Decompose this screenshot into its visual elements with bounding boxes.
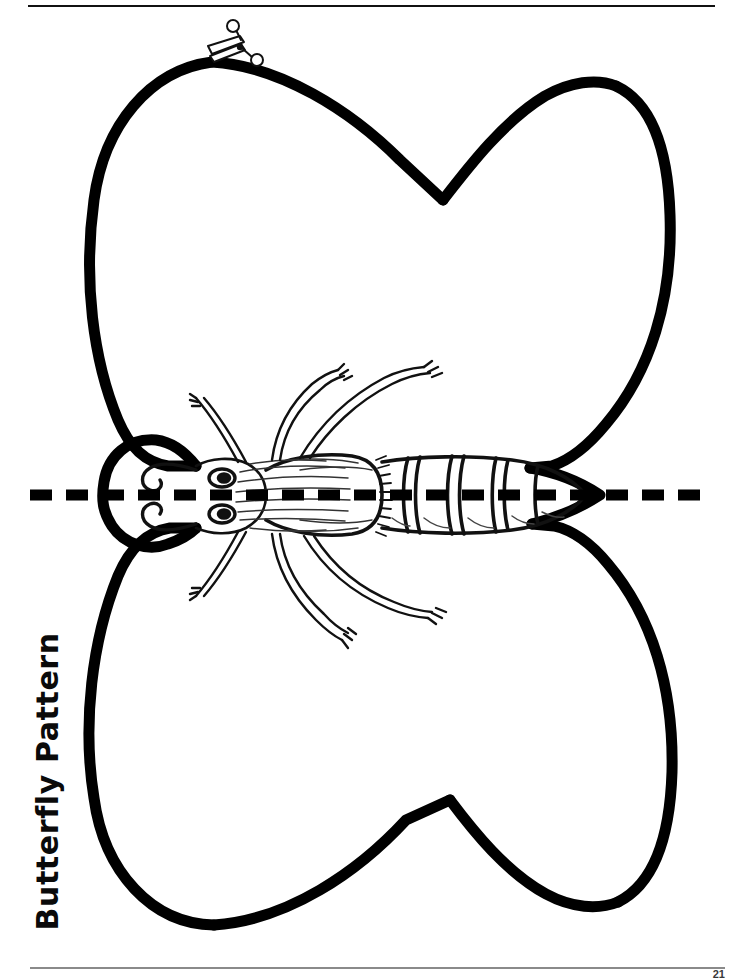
- leg-upper-1: [196, 398, 238, 462]
- bottom-divider-rule: [30, 967, 725, 969]
- scissors-pivot: [238, 45, 242, 49]
- eye-upper-pupil: [218, 474, 230, 483]
- leg-upper-1b: [204, 398, 246, 462]
- scissors-arm-lower: [243, 49, 252, 57]
- leg-upper-2b: [280, 376, 344, 460]
- wing-lower-left-inner: [214, 800, 450, 925]
- scissors-handle-lower: [251, 54, 263, 66]
- scissors-icon: [208, 20, 263, 66]
- page-title: Butterfly Pattern: [30, 601, 65, 931]
- abdomen-segment-3: [448, 456, 453, 534]
- page-number: 21: [713, 969, 725, 979]
- eye-lower-pupil: [218, 510, 230, 519]
- abdomen-segment-2: [416, 457, 421, 533]
- butterfly-pattern-artwork: [0, 0, 731, 979]
- wing-lower-right-inner: [450, 800, 618, 907]
- wing-upper-right-inner: [443, 82, 616, 200]
- leg-lower-1b: [204, 532, 246, 596]
- wing-upper-right: [530, 86, 670, 468]
- scissors-handle-upper: [227, 20, 239, 32]
- leg-upper-3-tarsus: [424, 361, 442, 377]
- insect-body-detail: [143, 361, 587, 648]
- wing-lower-right: [532, 524, 672, 902]
- abdomen-segment-5: [492, 458, 496, 532]
- leg-lower-3-tarsus: [428, 608, 446, 624]
- thorax-fringe: [376, 456, 392, 536]
- leg-lower-1: [196, 532, 238, 596]
- wing-upper-left-inner: [212, 62, 443, 200]
- worksheet-page: Butterfly Pattern 21: [0, 0, 731, 979]
